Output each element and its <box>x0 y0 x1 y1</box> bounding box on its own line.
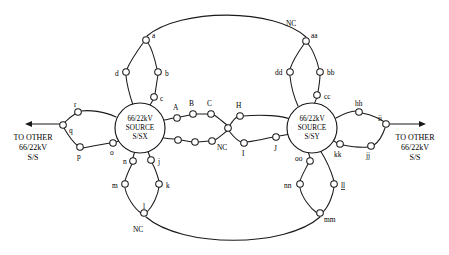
label-node-c: c <box>160 94 164 103</box>
source-ssx-line-2: SOURCE <box>126 124 155 132</box>
label-node-d: d <box>115 69 119 78</box>
label-node-I: I <box>242 149 245 158</box>
right-terminal-line-2: 66/22kV <box>401 143 429 152</box>
edge-cc-bb <box>318 75 320 92</box>
label-node-C: C <box>207 99 212 108</box>
node-A[interactable] <box>174 115 181 122</box>
node-r[interactable] <box>75 109 82 116</box>
edge-I-J <box>247 137 273 142</box>
node-p[interactable] <box>77 144 84 151</box>
node-nn[interactable] <box>297 181 304 188</box>
node-o[interactable] <box>110 140 117 147</box>
edge-ncj-H <box>230 117 237 125</box>
edge-a-d <box>127 43 143 69</box>
label-node-r: r <box>74 100 77 109</box>
node-j[interactable] <box>148 157 155 164</box>
edge-l-mm-bottom-arc <box>146 217 320 240</box>
edge-H-ssy <box>243 115 290 119</box>
right-terminal-line-3: S/S <box>409 153 420 162</box>
label-node-aa: aa <box>311 31 318 40</box>
label-node-l: l <box>143 202 145 211</box>
node-b[interactable] <box>155 69 162 76</box>
label-node-b: b <box>165 69 169 78</box>
left-terminal-line-1: TO OTHER <box>13 133 53 142</box>
label-node-B: B <box>189 99 194 108</box>
edge-b-a <box>148 43 157 69</box>
edge-A-B <box>180 115 190 117</box>
node-C[interactable] <box>208 111 215 118</box>
edge-bb-aa <box>308 44 319 69</box>
node-n[interactable] <box>130 158 137 165</box>
left-terminal-line-3: S/S <box>27 153 38 162</box>
label-node-j: j <box>157 157 160 166</box>
label-node-nc-junction: NC <box>217 143 227 152</box>
edge-dd-ssy <box>290 76 298 106</box>
edge-u1-u2 <box>181 140 192 142</box>
node-a[interactable] <box>143 37 150 44</box>
node-B[interactable] <box>190 111 197 118</box>
label-node-q: q <box>69 126 73 135</box>
edge-u3-ncj <box>215 131 227 140</box>
label-nc-top: NC <box>286 19 296 28</box>
source-ssy-line-3: S/SY <box>304 133 320 141</box>
right-terminal-line-1: TO OTHER <box>395 133 435 142</box>
node-J[interactable] <box>273 134 280 141</box>
label-node-oo: oo <box>295 154 303 163</box>
edge-jj-kk <box>343 145 368 147</box>
label-node-n: n <box>123 157 127 166</box>
left-terminal-line-2: 66/22kV <box>19 143 47 152</box>
label-node-ll: ll <box>341 181 345 190</box>
edge-C-ncj <box>214 115 227 125</box>
edge-d-ssx <box>126 76 133 105</box>
label-node-nn: nn <box>284 181 292 190</box>
node-kk[interactable] <box>337 141 344 148</box>
label-node-hh: hh <box>355 99 363 108</box>
node-nc-junction[interactable] <box>225 125 232 132</box>
label-node-H: H <box>236 101 242 110</box>
node-m[interactable] <box>122 181 129 188</box>
node-unlabeled-1[interactable] <box>175 137 182 144</box>
node-bb[interactable] <box>317 69 324 76</box>
label-node-bb: bb <box>327 68 335 77</box>
edge-ssx-A <box>164 118 174 120</box>
node-aa[interactable] <box>303 38 310 45</box>
node-ll[interactable] <box>331 181 338 188</box>
edge-u2-u3 <box>198 141 209 142</box>
node-ii[interactable] <box>383 121 390 128</box>
label-node-cc: cc <box>324 92 331 101</box>
label-node-kk: kk <box>334 150 342 159</box>
node-dd[interactable] <box>287 69 294 76</box>
node-oo[interactable] <box>307 158 314 165</box>
label-node-o: o <box>110 148 114 157</box>
node-H[interactable] <box>237 113 244 120</box>
edge-n-m <box>125 164 132 181</box>
edge-ncj-I <box>229 131 241 142</box>
node-q[interactable] <box>60 122 67 129</box>
edge-mm-ll <box>323 187 334 212</box>
label-node-ii: ii <box>378 114 382 123</box>
node-cc[interactable] <box>314 92 321 99</box>
label-node-m: m <box>112 181 118 190</box>
edge-ssx-r <box>81 111 116 117</box>
node-jj[interactable] <box>368 143 375 150</box>
edge-p-o <box>83 143 110 148</box>
node-unlabeled-3[interactable] <box>209 138 216 145</box>
label-node-p: p <box>77 152 81 161</box>
edge-ssy-hh <box>336 111 356 118</box>
node-c[interactable] <box>151 94 158 101</box>
label-node-k: k <box>166 181 170 190</box>
node-d[interactable] <box>123 69 130 76</box>
source-ssy-line-2: SOURCE <box>298 124 327 132</box>
edge-m-l <box>125 188 141 213</box>
label-node-A: A <box>173 103 179 112</box>
label-node-dd: dd <box>275 68 283 77</box>
source-ssx-line-1: 66/22kV <box>127 115 153 123</box>
right-arrow-head <box>419 121 426 127</box>
source-ssx-line-3: S/SX <box>132 133 148 141</box>
edge-ii-jj <box>374 128 385 145</box>
node-unlabeled-2[interactable] <box>192 139 199 146</box>
node-k[interactable] <box>156 181 163 188</box>
node-hh[interactable] <box>356 109 363 116</box>
node-I[interactable] <box>241 140 248 147</box>
node-mm[interactable] <box>317 210 324 217</box>
